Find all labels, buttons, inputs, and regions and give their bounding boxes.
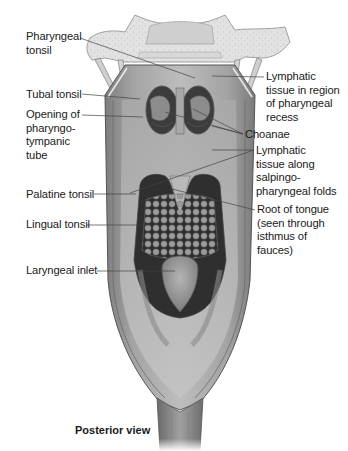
label-root-of-tongue: Root of tongue (seen through isthmus of … [257,203,329,257]
label-laryngeal-inlet: Laryngeal inlet [26,264,97,278]
label-opening-pharyngotympanic-tube: Opening of pharyngo- tympanic tube [26,108,80,162]
label-palatine-tonsil: Palatine tonsil [26,188,94,202]
label-pharyngeal-tonsil: Pharyngeal tonsil [26,30,82,57]
label-lymphatic-salpingopharyngeal: Lymphatic tissue along salpingo- pharyng… [256,144,337,198]
pharynx-diagram: Pharyngeal tonsil Tubal tonsil Opening o… [0,0,348,451]
label-lymphatic-pharyngeal-recess: Lymphatic tissue in region of pharyngeal… [266,70,340,124]
label-choanae: Choanae [245,128,290,142]
label-tubal-tonsil: Tubal tonsil [26,88,82,102]
label-lingual-tonsil: Lingual tonsil [26,218,90,232]
view-caption: Posterior view [75,424,150,436]
choanae [146,86,214,134]
